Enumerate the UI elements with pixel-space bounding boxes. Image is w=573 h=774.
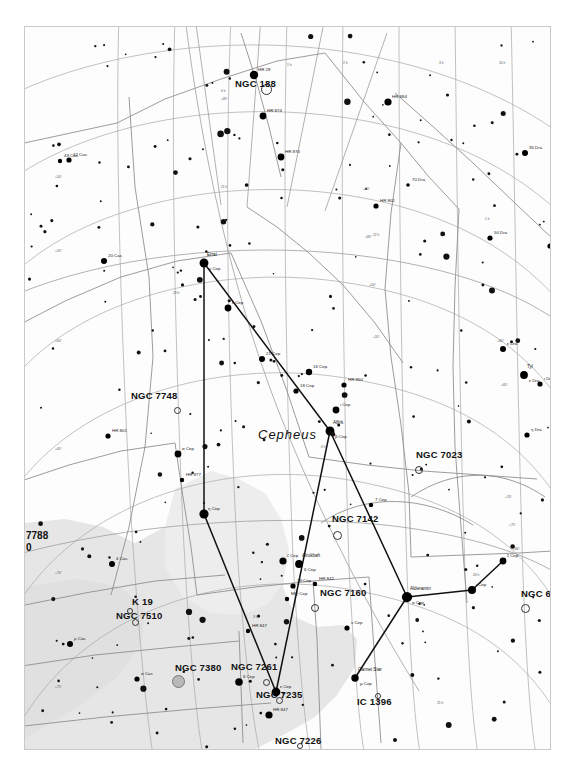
background-star: [408, 300, 410, 302]
background-star: [348, 34, 353, 39]
background-star: [52, 144, 55, 147]
background-star: [291, 656, 293, 658]
background-star: [38, 521, 43, 526]
background-star: [30, 245, 32, 247]
background-star: [127, 165, 130, 168]
background-star: [100, 200, 102, 202]
background-star: [520, 512, 522, 514]
background-star: [118, 389, 121, 392]
background-star: [344, 99, 350, 105]
background-star: [192, 636, 195, 639]
background-star: [173, 170, 178, 175]
star-marker: [487, 235, 492, 240]
background-star: [221, 219, 227, 225]
background-star: [269, 359, 272, 362]
background-star: [134, 595, 137, 598]
background-star: [481, 284, 484, 287]
star-marker: [293, 388, 298, 393]
background-star: [57, 142, 61, 146]
background-star: [205, 250, 208, 253]
background-star: [462, 142, 464, 144]
background-star: [164, 349, 167, 352]
background-star: [538, 619, 541, 622]
background-star: [191, 471, 193, 473]
background-star: [252, 552, 255, 555]
background-star: [186, 609, 192, 615]
background-star: [261, 561, 263, 563]
background-star: [103, 270, 105, 272]
background-star: [177, 271, 179, 273]
star-marker: [369, 503, 373, 507]
constellation-line: [204, 263, 330, 431]
background-star: [154, 145, 157, 148]
background-star: [443, 253, 449, 259]
background-star: [460, 329, 462, 331]
background-star: [140, 686, 146, 692]
background-star: [275, 656, 277, 658]
background-star: [106, 65, 108, 67]
star-marker: [105, 433, 110, 438]
background-star: [389, 165, 391, 167]
background-star: [220, 429, 222, 431]
background-star: [543, 221, 545, 223]
dso-marker: [311, 604, 319, 612]
star-marker: [260, 113, 267, 120]
background-star: [79, 712, 81, 714]
background-star: [43, 230, 46, 233]
background-star: [465, 381, 468, 384]
background-star: [135, 531, 138, 534]
background-star: [51, 597, 55, 601]
background-star: [164, 502, 166, 504]
star-marker: [175, 451, 182, 458]
clipped-edge-label: 7788: [26, 530, 48, 541]
background-star: [372, 116, 374, 118]
star-marker: [67, 641, 73, 647]
background-star: [539, 224, 541, 226]
star-marker: [279, 557, 286, 564]
background-star: [154, 56, 156, 58]
background-star: [147, 622, 149, 624]
background-star: [484, 476, 486, 478]
sky-map-canvas: [25, 27, 550, 749]
star-marker: [259, 356, 265, 362]
background-star: [446, 93, 449, 96]
background-star: [448, 489, 450, 491]
background-star: [355, 256, 357, 258]
background-star: [52, 347, 54, 349]
background-star: [415, 618, 419, 622]
background-star: [199, 617, 205, 623]
dso-marker: [297, 743, 303, 749]
star-marker: [265, 711, 272, 718]
background-star: [50, 219, 53, 222]
dso-marker: [415, 466, 423, 474]
background-star: [252, 325, 255, 328]
named-star-marker: [295, 560, 303, 568]
background-star: [418, 141, 420, 143]
dso-marker: [263, 679, 270, 686]
background-star: [422, 631, 424, 633]
background-star: [92, 657, 94, 659]
background-star: [424, 641, 426, 643]
sky-map-frame: NGC 188NGC 7748NGC 7023NGC 7142NGC 7160N…: [24, 26, 551, 750]
background-star: [299, 535, 305, 541]
background-star: [335, 189, 337, 191]
star-marker: [522, 150, 528, 156]
background-star: [364, 583, 367, 586]
star-marker: [306, 369, 312, 375]
background-star: [110, 721, 113, 724]
background-star: [205, 84, 208, 87]
background-star: [167, 139, 169, 141]
background-star: [412, 474, 414, 476]
star-marker: [199, 509, 208, 518]
background-star: [150, 222, 154, 226]
background-star: [534, 348, 536, 350]
background-star: [234, 727, 237, 730]
background-star: [464, 568, 467, 571]
star-marker: [333, 407, 340, 414]
background-star: [246, 724, 248, 726]
background-star: [139, 541, 141, 543]
background-star: [450, 139, 452, 141]
star-marker: [344, 625, 349, 630]
background-star: [96, 686, 98, 688]
star-marker: [290, 583, 295, 588]
